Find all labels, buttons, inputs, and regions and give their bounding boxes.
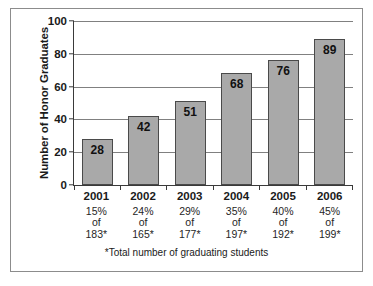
y-tick-label-20: 20 bbox=[54, 146, 67, 158]
x-label-total-2004: 197* bbox=[213, 229, 260, 241]
bar-value-2002: 42 bbox=[129, 120, 158, 134]
bar-slot-2005: 76 bbox=[260, 21, 307, 185]
bar-value-2001: 28 bbox=[83, 143, 112, 157]
plot-area: 100 80 60 40 20 0 28 42 bbox=[73, 21, 353, 186]
x-tick-mark-left bbox=[74, 185, 75, 190]
x-label-of-2006: of bbox=[306, 217, 353, 229]
x-label-total-2001: 183* bbox=[73, 229, 120, 241]
bar-slot-2003: 51 bbox=[167, 21, 214, 185]
bar-slot-2006: 89 bbox=[307, 21, 354, 185]
bar-2006[interactable]: 89 bbox=[314, 39, 345, 185]
bar-value-2003: 51 bbox=[176, 105, 205, 119]
x-label-total-2005: 192* bbox=[260, 229, 307, 241]
y-axis-title: Number of Honor Graduates bbox=[38, 18, 50, 188]
x-label-year-2004: 2004 bbox=[213, 191, 260, 203]
x-label-group-2006: 2006 45% of 199* bbox=[306, 191, 353, 240]
x-label-year-2001: 2001 bbox=[73, 191, 120, 203]
x-label-group-2005: 2005 40% of 192* bbox=[260, 191, 307, 240]
x-tick-mark-2003 bbox=[213, 185, 214, 190]
bar-2003[interactable]: 51 bbox=[175, 101, 206, 185]
x-tick-mark-2001 bbox=[120, 185, 121, 190]
y-tick-label-40: 40 bbox=[54, 113, 67, 125]
bar-2002[interactable]: 42 bbox=[128, 116, 159, 185]
chart-footnote: *Total number of graduating students bbox=[11, 247, 362, 258]
bars-layer: 28 42 51 68 bbox=[74, 21, 353, 185]
x-label-total-2003: 177* bbox=[166, 229, 213, 241]
x-label-group-2002: 2002 24% of 165* bbox=[120, 191, 167, 240]
x-label-of-2001: of bbox=[73, 217, 120, 229]
x-label-of-2005: of bbox=[260, 217, 307, 229]
bar-slot-2004: 68 bbox=[214, 21, 261, 185]
x-tick-mark-2005 bbox=[306, 185, 307, 190]
x-label-year-2003: 2003 bbox=[166, 191, 213, 203]
x-label-group-2003: 2003 29% of 177* bbox=[166, 191, 213, 240]
bar-slot-2002: 42 bbox=[121, 21, 168, 185]
y-tick-label-100: 100 bbox=[48, 15, 67, 27]
x-label-of-2002: of bbox=[120, 217, 167, 229]
bar-value-2004: 68 bbox=[222, 77, 251, 91]
x-tick-mark-2004 bbox=[259, 185, 260, 190]
bar-2005[interactable]: 76 bbox=[268, 60, 299, 185]
bar-chart-figure: Number of Honor Graduates 100 80 60 40 2… bbox=[10, 8, 363, 272]
x-tick-mark-2002 bbox=[166, 185, 167, 190]
x-axis-labels: 2001 15% of 183* 2002 24% of 165* 2003 2… bbox=[73, 191, 353, 240]
bar-value-2006: 89 bbox=[315, 43, 344, 57]
x-label-year-2005: 2005 bbox=[260, 191, 307, 203]
x-label-year-2002: 2002 bbox=[120, 191, 167, 203]
y-tick-label-0: 0 bbox=[61, 179, 67, 191]
x-label-year-2006: 2006 bbox=[306, 191, 353, 203]
bar-value-2005: 76 bbox=[269, 64, 298, 78]
x-label-total-2006: 199* bbox=[306, 229, 353, 241]
y-tick-label-80: 80 bbox=[54, 48, 67, 60]
x-label-of-2004: of bbox=[213, 217, 260, 229]
x-label-total-2002: 165* bbox=[120, 229, 167, 241]
x-label-group-2004: 2004 35% of 197* bbox=[213, 191, 260, 240]
bar-2001[interactable]: 28 bbox=[82, 139, 113, 185]
x-tick-mark-2006 bbox=[352, 185, 353, 190]
bar-slot-2001: 28 bbox=[74, 21, 121, 185]
x-label-of-2003: of bbox=[166, 217, 213, 229]
bar-2004[interactable]: 68 bbox=[221, 73, 252, 185]
x-label-group-2001: 2001 15% of 183* bbox=[73, 191, 120, 240]
y-tick-label-60: 60 bbox=[54, 81, 67, 93]
